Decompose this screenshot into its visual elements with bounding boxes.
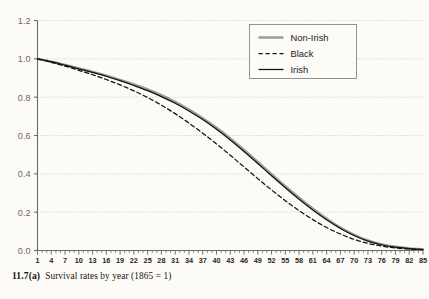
legend-label-irish: Irish <box>291 64 309 75</box>
figure-container: 0.00.20.40.60.81.01.2 147101316192225283… <box>0 0 429 299</box>
y-axis-tick-label: 0.2 <box>18 208 31 218</box>
x-axis-tick-label: 25 <box>144 256 152 265</box>
caption-text: Survival rates by year (1865 = 1) <box>45 271 171 281</box>
y-axis-tick-label: 0.4 <box>18 169 31 179</box>
y-axis-tick-label: 0.8 <box>18 93 31 103</box>
legend-label-non-irish: Non-Irish <box>291 32 329 43</box>
x-axis-tick-label: 73 <box>364 256 372 265</box>
x-axis-tick-label: 19 <box>116 256 124 265</box>
series-line-irish <box>38 59 424 250</box>
x-axis-tick-label: 31 <box>171 256 179 265</box>
legend-label-black: Black <box>291 48 314 59</box>
x-axis-tick-label: 1 <box>35 256 39 265</box>
caption-number: 11.7(a) <box>12 270 40 281</box>
x-axis-tick-label: 13 <box>89 256 97 265</box>
x-axis-tick-label: 58 <box>295 256 303 265</box>
y-axis-labels: 0.00.20.40.60.81.01.2 <box>18 16 31 256</box>
x-axis-ticks <box>38 251 424 255</box>
x-axis-tick-label: 22 <box>130 256 138 265</box>
x-axis-tick-label: 28 <box>157 256 165 265</box>
x-axis-tick-label: 55 <box>281 256 289 265</box>
x-axis-tick-label: 46 <box>240 256 248 265</box>
x-axis-tick-label: 43 <box>226 256 234 265</box>
x-axis-tick-label: 85 <box>419 256 427 265</box>
figure-caption: 11.7(a)Survival rates by year (1865 = 1) <box>12 270 422 281</box>
y-axis-tick-label: 1.0 <box>18 54 31 64</box>
x-axis-tick-label: 16 <box>102 256 110 265</box>
x-axis-tick-label: 82 <box>405 256 413 265</box>
gridlines <box>38 21 424 213</box>
chart-legend: Non-IrishBlackIrish <box>250 25 357 79</box>
survival-rate-chart: 0.00.20.40.60.81.01.2 147101316192225283… <box>0 0 429 299</box>
data-curves <box>38 59 424 250</box>
x-axis-tick-label: 40 <box>212 256 220 265</box>
x-axis-tick-label: 52 <box>267 256 275 265</box>
x-axis-tick-label: 67 <box>336 256 344 265</box>
x-axis-labels: 1471013161922252831343740434649525558616… <box>35 256 427 265</box>
x-axis-tick-label: 10 <box>75 256 83 265</box>
series-line-black <box>38 59 424 250</box>
x-axis-tick-label: 76 <box>378 256 386 265</box>
x-axis-tick-label: 37 <box>199 256 207 265</box>
y-axis-tick-label: 1.2 <box>18 16 31 26</box>
x-axis-tick-label: 7 <box>63 256 67 265</box>
x-axis-tick-label: 64 <box>323 256 332 265</box>
x-axis-tick-label: 61 <box>309 256 317 265</box>
x-axis-tick-label: 34 <box>185 256 194 265</box>
x-axis-tick-label: 79 <box>391 256 399 265</box>
series-line-non-irish <box>38 59 424 250</box>
y-axis-tick-label: 0.0 <box>18 246 31 256</box>
y-axis-tick-label: 0.6 <box>18 131 31 141</box>
x-axis-tick-label: 70 <box>350 256 358 265</box>
x-axis-tick-label: 49 <box>254 256 262 265</box>
x-axis-tick-label: 4 <box>49 256 54 265</box>
